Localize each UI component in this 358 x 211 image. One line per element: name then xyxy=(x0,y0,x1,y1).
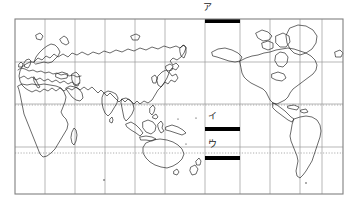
pacific-island-dot xyxy=(185,143,186,144)
marker-label-i: イ xyxy=(208,112,217,121)
falkland-island-dot xyxy=(305,182,306,183)
pacific-island-dot xyxy=(195,117,196,118)
marker-bar-i xyxy=(205,127,240,131)
map-plot-area xyxy=(15,19,343,194)
marker-label-u: ウ xyxy=(208,140,217,149)
marker-bar-a xyxy=(205,19,240,23)
world-map-figure: ア イ ウ xyxy=(0,0,358,211)
marker-bar-u xyxy=(205,156,240,160)
marker-label-a: ア xyxy=(203,3,212,12)
pacific-island-dot xyxy=(177,118,178,119)
indian-ocean-island-dot xyxy=(103,179,104,180)
world-map-canvas xyxy=(0,0,358,211)
